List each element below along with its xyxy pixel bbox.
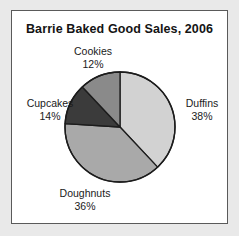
pie-label-cupcakes: Cupcakes 14% bbox=[14, 97, 86, 122]
pie-chart-graphic bbox=[64, 71, 176, 183]
pie-label-doughnuts-name: Doughnuts bbox=[42, 187, 128, 200]
pie-label-duffins-value: 38% bbox=[174, 110, 230, 123]
pie-label-duffins-name: Duffins bbox=[174, 97, 230, 110]
pie-label-cookies: Cookies 12% bbox=[56, 45, 130, 70]
pie-plot-area: Cookies 12% Duffins 38% Cupcakes 14% Dou… bbox=[12, 11, 227, 223]
pie-label-doughnuts-value: 36% bbox=[42, 200, 128, 213]
pie-label-cupcakes-name: Cupcakes bbox=[14, 97, 86, 110]
pie-label-cookies-value: 12% bbox=[56, 58, 130, 71]
pie-label-cookies-name: Cookies bbox=[56, 45, 130, 58]
figure-canvas: Barrie Baked Good Sales, 2006 Cookies 12… bbox=[0, 0, 239, 236]
pie-label-duffins: Duffins 38% bbox=[174, 97, 230, 122]
pie-label-cupcakes-value: 14% bbox=[14, 110, 86, 123]
chart-panel: Barrie Baked Good Sales, 2006 Cookies 12… bbox=[11, 10, 228, 224]
pie-label-doughnuts: Doughnuts 36% bbox=[42, 187, 128, 212]
